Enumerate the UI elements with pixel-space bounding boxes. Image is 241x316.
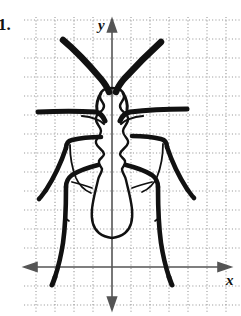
right-rear-leg-lower [158,187,169,277]
y-axis-arrow-down [108,297,117,310]
x-axis-arrow-right [218,263,231,272]
coordinate-plane-svg: y x [0,0,241,316]
left-antenna [63,40,109,92]
right-rear-leg-tip [169,277,172,285]
insect-graph-figure: 1. [0,0,241,316]
x-axis-label: x [225,272,234,288]
problem-number-label: 1. [0,16,11,33]
y-axis-label: y [96,17,105,33]
left-rear-leg-lower [55,187,66,277]
left-hind-leg-lower [39,148,66,199]
right-hind-leg [132,136,167,147]
right-antenna [116,42,161,92]
left-rear-leg-tip [52,277,55,285]
x-axis-arrow-left [24,263,37,272]
y-axis-arrow-up [108,19,117,32]
